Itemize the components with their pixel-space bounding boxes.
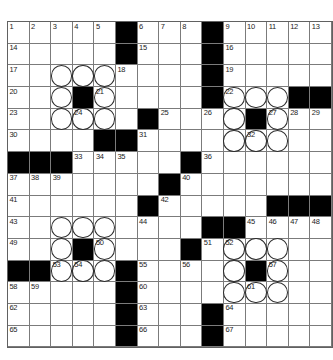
- crossword-cell[interactable]: [289, 174, 311, 196]
- crossword-cell[interactable]: 8: [181, 22, 203, 44]
- crossword-cell[interactable]: [30, 65, 52, 87]
- crossword-cell[interactable]: 12: [289, 22, 311, 44]
- crossword-cell[interactable]: 30: [8, 130, 30, 152]
- crossword-cell[interactable]: [51, 326, 73, 348]
- crossword-cell[interactable]: [51, 44, 73, 66]
- crossword-cell[interactable]: [246, 152, 268, 174]
- crossword-cell[interactable]: [30, 44, 52, 66]
- crossword-cell[interactable]: 55: [138, 261, 160, 283]
- crossword-cell[interactable]: [159, 217, 181, 239]
- crossword-cell[interactable]: [30, 109, 52, 131]
- crossword-cell[interactable]: [310, 261, 332, 283]
- crossword-cell[interactable]: 4: [73, 22, 95, 44]
- crossword-cell[interactable]: [224, 152, 246, 174]
- crossword-cell[interactable]: [181, 87, 203, 109]
- crossword-cell[interactable]: 51: [202, 239, 224, 261]
- crossword-cell[interactable]: [181, 44, 203, 66]
- crossword-cell[interactable]: [224, 261, 246, 283]
- crossword-cell[interactable]: 22: [224, 87, 246, 109]
- crossword-cell[interactable]: 29: [310, 109, 332, 131]
- crossword-cell[interactable]: 39: [51, 174, 73, 196]
- crossword-cell[interactable]: [73, 282, 95, 304]
- crossword-cell[interactable]: [30, 304, 52, 326]
- crossword-cell[interactable]: [94, 109, 116, 131]
- crossword-cell[interactable]: [159, 282, 181, 304]
- crossword-cell[interactable]: [51, 65, 73, 87]
- crossword-cell[interactable]: [181, 304, 203, 326]
- crossword-cell[interactable]: [73, 44, 95, 66]
- crossword-cell[interactable]: 2: [30, 22, 52, 44]
- crossword-cell[interactable]: [267, 282, 289, 304]
- crossword-cell[interactable]: [310, 44, 332, 66]
- crossword-cell[interactable]: [159, 44, 181, 66]
- crossword-cell[interactable]: 25: [159, 109, 181, 131]
- crossword-cell[interactable]: 41: [8, 196, 30, 218]
- crossword-cell[interactable]: 52: [224, 239, 246, 261]
- crossword-cell[interactable]: 9: [224, 22, 246, 44]
- crossword-cell[interactable]: 6: [138, 22, 160, 44]
- crossword-cell[interactable]: [159, 87, 181, 109]
- crossword-cell[interactable]: [30, 130, 52, 152]
- crossword-cell[interactable]: [289, 239, 311, 261]
- crossword-cell[interactable]: 45: [246, 217, 268, 239]
- crossword-cell[interactable]: [202, 130, 224, 152]
- crossword-cell[interactable]: [181, 109, 203, 131]
- crossword-cell[interactable]: [289, 261, 311, 283]
- crossword-cell[interactable]: 43: [8, 217, 30, 239]
- crossword-cell[interactable]: 34: [94, 152, 116, 174]
- crossword-cell[interactable]: 58: [8, 282, 30, 304]
- crossword-cell[interactable]: [73, 304, 95, 326]
- crossword-cell[interactable]: [159, 130, 181, 152]
- crossword-cell[interactable]: 44: [138, 217, 160, 239]
- crossword-cell[interactable]: 62: [8, 304, 30, 326]
- crossword-cell[interactable]: [116, 196, 138, 218]
- crossword-cell[interactable]: [138, 87, 160, 109]
- crossword-cell[interactable]: [30, 217, 52, 239]
- crossword-cell[interactable]: [159, 261, 181, 283]
- crossword-cell[interactable]: [73, 130, 95, 152]
- crossword-cell[interactable]: 16: [224, 44, 246, 66]
- crossword-cell[interactable]: 32: [246, 130, 268, 152]
- crossword-cell[interactable]: [159, 152, 181, 174]
- crossword-cell[interactable]: [202, 282, 224, 304]
- crossword-cell[interactable]: [310, 282, 332, 304]
- crossword-cell[interactable]: 65: [8, 326, 30, 348]
- crossword-cell[interactable]: [310, 65, 332, 87]
- crossword-cell[interactable]: 1: [8, 22, 30, 44]
- crossword-cell[interactable]: [267, 326, 289, 348]
- crossword-cell[interactable]: [246, 326, 268, 348]
- crossword-cell[interactable]: [181, 196, 203, 218]
- crossword-cell[interactable]: [138, 174, 160, 196]
- crossword-cell[interactable]: [289, 282, 311, 304]
- crossword-cell[interactable]: 20: [8, 87, 30, 109]
- crossword-cell[interactable]: 23: [8, 109, 30, 131]
- crossword-cell[interactable]: [51, 87, 73, 109]
- crossword-cell[interactable]: [73, 174, 95, 196]
- crossword-cell[interactable]: [224, 109, 246, 131]
- crossword-cell[interactable]: [30, 326, 52, 348]
- crossword-cell[interactable]: [267, 130, 289, 152]
- crossword-cell[interactable]: [310, 239, 332, 261]
- crossword-cell[interactable]: [138, 239, 160, 261]
- crossword-cell[interactable]: [310, 174, 332, 196]
- crossword-cell[interactable]: [30, 196, 52, 218]
- crossword-cell[interactable]: [267, 304, 289, 326]
- crossword-cell[interactable]: 46: [267, 217, 289, 239]
- crossword-cell[interactable]: 26: [202, 109, 224, 131]
- crossword-cell[interactable]: [159, 239, 181, 261]
- crossword-cell[interactable]: [181, 65, 203, 87]
- crossword-cell[interactable]: [51, 196, 73, 218]
- crossword-cell[interactable]: [159, 304, 181, 326]
- crossword-cell[interactable]: [246, 87, 268, 109]
- crossword-cell[interactable]: [116, 87, 138, 109]
- crossword-cell[interactable]: 59: [30, 282, 52, 304]
- crossword-cell[interactable]: 28: [289, 109, 311, 131]
- crossword-cell[interactable]: [224, 130, 246, 152]
- crossword-cell[interactable]: 37: [8, 174, 30, 196]
- crossword-cell[interactable]: [202, 261, 224, 283]
- crossword-cell[interactable]: [289, 65, 311, 87]
- crossword-cell[interactable]: [246, 174, 268, 196]
- crossword-cell[interactable]: 24: [73, 109, 95, 131]
- crossword-cell[interactable]: [73, 65, 95, 87]
- crossword-cell[interactable]: [51, 282, 73, 304]
